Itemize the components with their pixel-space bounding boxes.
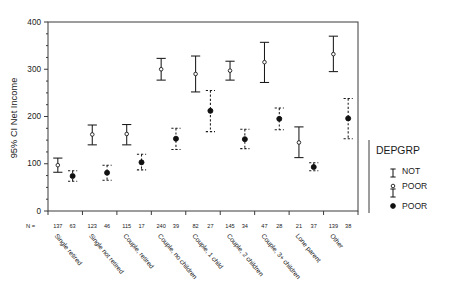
legend: DEPGRPNOTPOORPOOR [369, 140, 427, 213]
y-tick-label: 300 [27, 65, 41, 74]
legend-line-label: NOT [402, 166, 421, 176]
x-category-label: Couple, 1 child [190, 232, 224, 271]
data-point-poor [173, 136, 178, 141]
data-point-poor [139, 160, 144, 165]
error-bar-poor [206, 91, 215, 132]
x-category-label: Other [329, 232, 345, 250]
error-bar-not-poor [122, 125, 131, 145]
legend-entry: NOTPOOR [390, 166, 427, 191]
error-bar-poor [309, 163, 318, 171]
data-point-not-poor [297, 141, 301, 145]
sample-size-value: 115 [122, 223, 131, 229]
legend-marker-poor-icon [391, 204, 396, 209]
error-bar-poor [240, 129, 249, 148]
sample-size-value: 27 [207, 223, 213, 229]
error-bar-poor [171, 128, 180, 149]
data-point-poor [70, 174, 75, 179]
data-point-not-poor [228, 69, 232, 73]
data-point-poor [208, 108, 213, 113]
y-axis-ticks: 0100200300400 [27, 18, 48, 216]
error-bar-poor [344, 99, 353, 139]
error-bar-poor [137, 154, 146, 170]
error-bar-chart: 95% CI Net Income 0100200300400 N =13712… [0, 0, 461, 307]
sample-size-value: 63 [70, 223, 76, 229]
sample-size-value: 17 [138, 223, 144, 229]
sample-size-value: 145 [225, 223, 234, 229]
data-point-not-poor [263, 60, 267, 64]
x-category-label: Lone parent [294, 232, 323, 264]
error-bar-not-poor [260, 42, 269, 82]
chart-container: 95% CI Net Income 0100200300400 N =13712… [0, 0, 461, 307]
x-category-label: Couple, no children [156, 232, 199, 281]
legend-title: DEPGRP [376, 145, 420, 156]
legend-marker-label: POOR [402, 181, 427, 191]
data-point-poor [346, 116, 351, 121]
error-bar-not-poor [329, 36, 338, 71]
sample-size-value: 82 [192, 223, 198, 229]
error-bar-not-poor [53, 158, 62, 172]
y-tick-label: 200 [27, 112, 41, 121]
sample-size-value: 137 [53, 223, 62, 229]
sample-size-value: 139 [329, 223, 338, 229]
data-point-not-poor [159, 67, 163, 71]
x-category-label: Couple, 3+ children [259, 232, 302, 281]
y-tick-label: 100 [27, 159, 41, 168]
sample-size-row: N =1371231152408214547211396346173927342… [26, 223, 351, 229]
plot-frame [48, 22, 358, 215]
data-point-not-poor [194, 72, 198, 76]
error-bar-not-poor [225, 61, 234, 80]
error-bar-not-poor [191, 56, 200, 92]
error-bar-not-poor [294, 127, 303, 158]
legend-marker-not-poor-icon [391, 184, 395, 188]
error-bar-poor [68, 171, 77, 181]
sample-size-value: 37 [311, 223, 317, 229]
sample-size-value: 39 [173, 223, 179, 229]
sample-size-value: 240 [156, 223, 165, 229]
legend-entry: POOR [390, 189, 427, 211]
sample-size-value: 28 [276, 223, 282, 229]
x-category-label: Couple, retired [122, 232, 156, 271]
error-bar-not-poor [88, 125, 97, 145]
sample-size-value: 34 [242, 223, 248, 229]
x-axis-category-labels: Single retiredSingle not retiredCouple, … [53, 232, 346, 281]
data-point-poor [242, 137, 247, 142]
y-axis-title: 95% CI Net Income [9, 78, 19, 159]
x-category-label: Single not retired [87, 232, 125, 276]
sample-size-value: 46 [104, 223, 110, 229]
axes-frame [48, 22, 358, 211]
sample-size-prefix: N = [26, 223, 36, 229]
x-category-label: Single retired [53, 232, 84, 267]
data-marks [53, 36, 353, 181]
error-bar-poor [275, 108, 284, 130]
data-point-not-poor [125, 132, 129, 136]
data-point-not-poor [332, 52, 336, 56]
sample-size-value: 38 [345, 223, 351, 229]
data-point-not-poor [90, 133, 94, 137]
sample-size-value: 21 [296, 223, 302, 229]
data-point-not-poor [56, 163, 60, 167]
y-tick-label: 400 [27, 18, 41, 27]
error-bar-poor [102, 165, 111, 180]
data-point-poor [277, 116, 282, 121]
sample-size-value: 123 [88, 223, 97, 229]
y-tick-label: 0 [36, 207, 41, 216]
x-category-label: Couple, 2 children [225, 232, 266, 278]
legend-marker-label: POOR [402, 201, 427, 211]
sample-size-value: 47 [261, 223, 267, 229]
error-bar-not-poor [157, 58, 166, 80]
data-point-poor [311, 165, 316, 170]
data-point-poor [105, 170, 110, 175]
